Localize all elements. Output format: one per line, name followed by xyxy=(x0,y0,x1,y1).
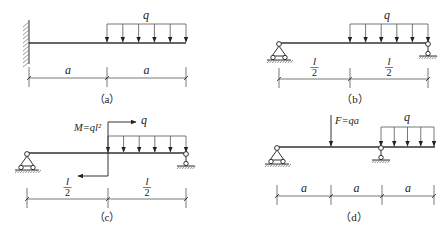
panel-caption: （b） xyxy=(341,93,369,105)
dimension-line: l2l2 xyxy=(25,175,188,208)
panel-caption: （d） xyxy=(340,211,368,223)
dimension-denominator: 2 xyxy=(65,187,70,198)
panel-b: ql2l2（b） xyxy=(267,8,437,105)
dimension-label: a xyxy=(354,181,360,195)
dimension-numerator: l xyxy=(145,175,148,187)
dimension-denominator: 2 xyxy=(145,187,150,198)
dimension-label: a xyxy=(65,63,71,77)
panel-a: qaa（a） xyxy=(23,8,188,105)
dimension-line: l2l2 xyxy=(277,55,430,88)
distributed-load: q xyxy=(381,110,434,146)
dimension-label: a xyxy=(144,63,150,77)
dimension-numerator: l xyxy=(313,55,316,67)
panel-d: qF=qaaaa（d） xyxy=(265,110,436,223)
dimension-label: a xyxy=(301,181,307,195)
force-label: F=qa xyxy=(334,115,359,126)
load-label-q: q xyxy=(384,8,390,22)
pin-support-icon xyxy=(265,146,291,167)
fixed-wall-support-icon xyxy=(23,20,29,67)
dimension-line: aaa xyxy=(275,181,436,205)
distributed-load: q xyxy=(108,113,186,152)
panel-caption: （a） xyxy=(94,93,121,105)
roller-support-icon xyxy=(177,152,195,169)
moment-label: M=ql² xyxy=(73,122,102,133)
point-load-arrow-icon: F=qa xyxy=(331,115,359,146)
dimension-denominator: 2 xyxy=(312,67,317,78)
moment-couple-icon: M=ql² xyxy=(73,122,136,176)
pin-support-icon xyxy=(15,152,41,173)
load-label-q: q xyxy=(404,110,410,124)
dimension-line: aa xyxy=(27,63,188,87)
distributed-load: q xyxy=(107,8,186,42)
load-label-q: q xyxy=(141,113,147,127)
dimension-label: a xyxy=(405,181,411,195)
dimension-numerator: l xyxy=(387,55,390,67)
beam-diagrams-svg: qaa（a）ql2l2（b）qM=ql²l2l2（c）qF=qaaaa（d） xyxy=(0,0,447,232)
dimension-numerator: l xyxy=(66,175,69,187)
beam-diagram-figure: qaa（a）ql2l2（b）qM=ql²l2l2（c）qF=qaaaa（d） xyxy=(0,0,447,232)
roller-support-icon xyxy=(372,146,390,163)
pin-support-icon xyxy=(267,42,293,63)
panel-c: qM=ql²l2l2（c） xyxy=(15,113,195,223)
load-label-q: q xyxy=(143,8,149,22)
roller-support-icon xyxy=(419,42,437,59)
distributed-load: q xyxy=(350,8,428,42)
dimension-denominator: 2 xyxy=(387,67,392,78)
panel-caption: （c） xyxy=(94,211,121,223)
